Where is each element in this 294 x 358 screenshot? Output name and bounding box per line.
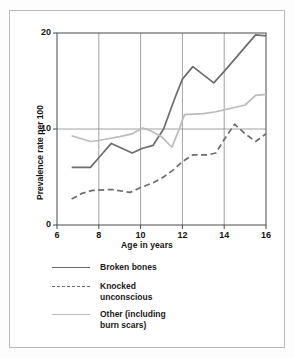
series-line-other-including-burn-scars bbox=[72, 94, 266, 147]
x-tick-label: 16 bbox=[254, 230, 278, 240]
solid-light-line-swatch-icon bbox=[52, 309, 90, 321]
solid-dark-line-swatch-icon bbox=[52, 262, 90, 274]
x-tick-label: 10 bbox=[129, 230, 153, 240]
legend-item-other: Other (including burn scars) bbox=[52, 309, 282, 330]
y-axis-title: Prevalence rate per 100 bbox=[35, 105, 45, 200]
x-tick-label: 14 bbox=[212, 230, 236, 240]
y-tick-label: 0 bbox=[23, 219, 51, 229]
chart-legend: Broken bones Knocked unconscious Other (… bbox=[52, 262, 282, 337]
chart-figure: Prevalence rate per 100 Age in years Bro… bbox=[0, 0, 294, 358]
legend-item-broken-bones: Broken bones bbox=[52, 262, 282, 274]
legend-label: Other (including burn scars) bbox=[100, 309, 166, 330]
legend-label: Broken bones bbox=[100, 262, 157, 273]
y-tick-label: 20 bbox=[23, 27, 51, 37]
y-tick-label: 10 bbox=[23, 123, 51, 133]
x-tick-label: 6 bbox=[45, 230, 69, 240]
x-tick-label: 12 bbox=[170, 230, 194, 240]
x-axis-title: Age in years bbox=[0, 240, 294, 250]
legend-item-knocked-unconscious: Knocked unconscious bbox=[52, 281, 282, 302]
series-line-knocked-unconscious bbox=[72, 124, 266, 199]
legend-label: Knocked unconscious bbox=[100, 281, 152, 302]
x-tick-label: 8 bbox=[87, 230, 111, 240]
series-line-broken-bones bbox=[72, 35, 266, 167]
dashed-dark-line-swatch-icon bbox=[52, 281, 90, 293]
